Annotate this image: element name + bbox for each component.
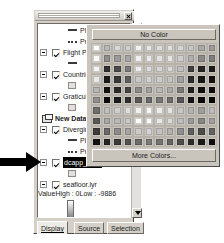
fill-symbol-swatch[interactable] [68,170,76,177]
expand-collapse-icon[interactable] [40,181,47,188]
color-swatch[interactable] [133,126,144,136]
color-swatch[interactable] [196,105,207,115]
color-swatch[interactable] [144,116,155,126]
color-swatch[interactable] [154,126,165,136]
color-swatch[interactable] [112,85,123,95]
color-swatch[interactable] [133,95,144,105]
color-swatch[interactable] [123,116,134,126]
color-swatch[interactable] [144,105,155,115]
color-swatch[interactable] [207,116,218,126]
color-swatch[interactable] [207,126,218,136]
color-swatch[interactable] [207,53,218,63]
color-swatch[interactable] [91,43,102,53]
color-swatch[interactable] [102,74,113,84]
color-swatch[interactable] [102,137,113,147]
color-swatch[interactable] [133,74,144,84]
expand-collapse-icon[interactable] [40,49,47,56]
color-swatch[interactable] [175,116,186,126]
color-swatch[interactable] [154,95,165,105]
color-swatch[interactable] [165,74,176,84]
color-swatch[interactable] [165,116,176,126]
color-swatch[interactable] [175,43,186,53]
color-swatch[interactable] [186,85,197,95]
color-swatch[interactable] [196,116,207,126]
color-swatch[interactable] [186,105,197,115]
color-swatch[interactable] [175,126,186,136]
toc-drag-grip[interactable] [38,13,120,18]
color-swatch[interactable] [165,64,176,74]
toc-row[interactable] [38,168,120,179]
color-swatch[interactable] [154,105,165,115]
color-swatch[interactable] [175,85,186,95]
color-swatch[interactable] [186,43,197,53]
toc-title-bar[interactable] [35,11,134,21]
layer-visibility-checkbox[interactable] [52,181,60,189]
color-swatch[interactable] [196,85,207,95]
more-colors-button[interactable]: More Colors... [92,149,216,162]
dashed-line-symbol-icon[interactable] [68,41,77,43]
color-swatch[interactable] [186,116,197,126]
color-swatch[interactable] [175,137,186,147]
color-swatch[interactable] [165,137,176,147]
color-swatch[interactable] [196,74,207,84]
color-swatch[interactable] [186,74,197,84]
color-swatch[interactable] [186,95,197,105]
color-swatch[interactable] [112,53,123,63]
color-swatch[interactable] [154,116,165,126]
color-swatch[interactable] [102,105,113,115]
color-swatch[interactable] [165,126,176,136]
color-swatch[interactable] [154,85,165,95]
color-swatch[interactable] [207,137,218,147]
color-swatch[interactable] [144,53,155,63]
fill-symbol-swatch[interactable] [68,82,76,89]
dashed-line-symbol-icon[interactable] [68,151,77,153]
color-swatch[interactable] [186,64,197,74]
color-swatch[interactable] [144,137,155,147]
color-swatch[interactable] [133,137,144,147]
layer-visibility-checkbox[interactable] [52,93,60,101]
color-swatch[interactable] [207,64,218,74]
color-swatch[interactable] [133,105,144,115]
fill-symbol-swatch[interactable] [68,104,76,111]
color-swatch[interactable] [144,74,155,84]
color-swatch[interactable] [112,105,123,115]
color-swatch[interactable] [123,43,134,53]
color-swatch[interactable] [207,95,218,105]
color-swatch[interactable] [112,64,123,74]
color-swatch[interactable] [133,116,144,126]
color-swatch[interactable] [112,126,123,136]
color-swatch[interactable] [175,95,186,105]
color-swatch[interactable] [154,137,165,147]
color-swatch[interactable] [144,85,155,95]
color-swatch[interactable] [175,53,186,63]
color-swatch[interactable] [175,105,186,115]
color-swatch[interactable] [186,137,197,147]
color-swatch[interactable] [154,43,165,53]
color-swatch[interactable] [133,43,144,53]
color-swatch[interactable] [207,43,218,53]
color-swatch[interactable] [144,95,155,105]
color-swatch[interactable] [165,95,176,105]
color-swatch[interactable] [112,74,123,84]
color-swatch[interactable] [91,53,102,63]
color-swatch[interactable] [112,43,123,53]
scroll-down-arrow-icon[interactable] [132,208,142,218]
color-swatch[interactable] [123,126,134,136]
expand-collapse-icon[interactable] [40,126,47,133]
color-swatch[interactable] [123,105,134,115]
color-swatch[interactable] [123,85,134,95]
no-color-button[interactable]: No Color [92,29,216,40]
color-swatch[interactable] [91,74,102,84]
color-swatch[interactable] [102,64,113,74]
color-swatch[interactable] [112,95,123,105]
color-swatch[interactable] [91,137,102,147]
layer-visibility-checkbox[interactable] [52,126,60,134]
color-swatch[interactable] [91,126,102,136]
color-swatch[interactable] [91,85,102,95]
color-swatch[interactable] [196,53,207,63]
color-swatch[interactable] [102,85,113,95]
tab-source[interactable]: Source [74,222,104,234]
color-swatch[interactable] [196,137,207,147]
color-swatch[interactable] [165,85,176,95]
color-swatch[interactable] [102,95,113,105]
